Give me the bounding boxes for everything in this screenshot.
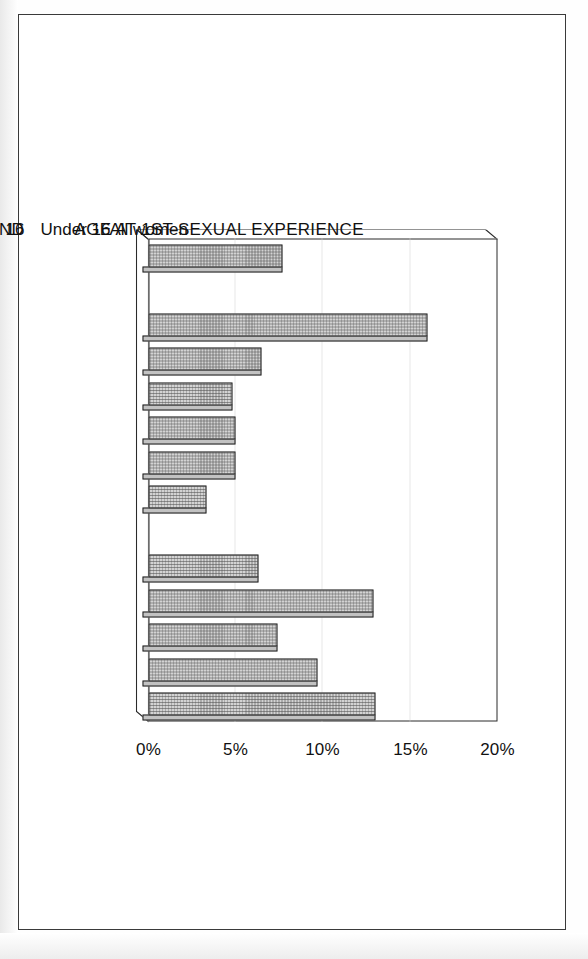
bar: [149, 658, 318, 681]
value-tick-5pct: 5%: [208, 740, 264, 760]
bar-chart: 0%5%10%15%20% All womenAGE AT 1ST SEXUAL…: [80, 52, 510, 907]
bar: [149, 451, 236, 474]
bar: [149, 555, 259, 578]
value-tick-0pct: 0%: [121, 740, 177, 760]
scan-edge-shading-left: [0, 0, 18, 959]
bar: [149, 313, 428, 336]
bar: [149, 486, 207, 509]
bar: [149, 244, 283, 267]
value-tick-20pct: 20%: [470, 740, 526, 760]
plot-area: 0%5%10%15%20%: [138, 230, 498, 722]
value-tick-10pct: 10%: [295, 740, 351, 760]
scan-edge-shading-bottom: [0, 933, 588, 959]
bar: [149, 382, 233, 405]
value-tick-15pct: 15%: [382, 740, 438, 760]
bar-group: [149, 239, 498, 722]
bar: [149, 417, 236, 440]
bar: [149, 693, 376, 716]
scanned-page: 0%5%10%15%20% All womenAGE AT 1ST SEXUAL…: [0, 0, 588, 959]
bar: [149, 589, 374, 612]
bar: [149, 348, 262, 371]
bar: [149, 624, 278, 647]
